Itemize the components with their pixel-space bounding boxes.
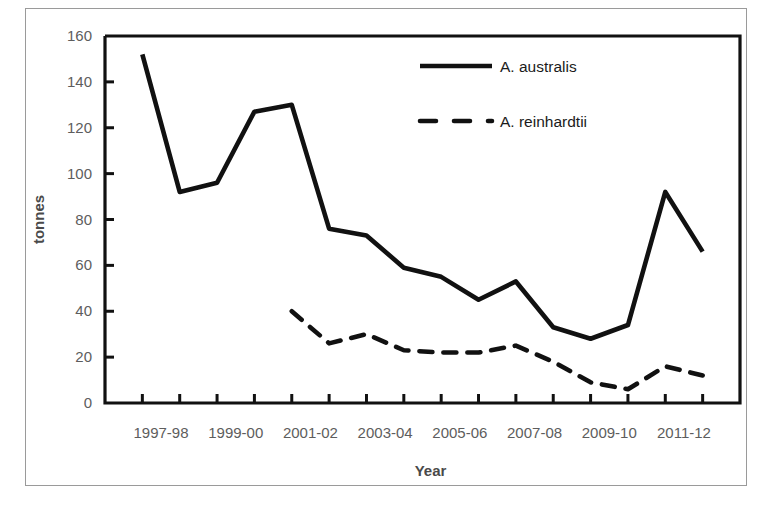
x-axis-tick-label: 2005-06 — [432, 424, 487, 441]
x-axis-tick-label: 2007-08 — [507, 424, 562, 441]
legend-label-1: A. australis — [500, 58, 577, 75]
x-axis-tick-label: 1997-98 — [133, 424, 188, 441]
x-axis-tick-label: 2003-04 — [358, 424, 413, 441]
y-axis-tick-label: 60 — [75, 256, 92, 273]
y-axis-tick-label: 160 — [67, 27, 92, 44]
plot-area-border — [105, 36, 740, 403]
y-axis-tick-label: 120 — [67, 119, 92, 136]
y-axis-title: tonnes — [30, 195, 47, 244]
x-axis-tick-label: 2011-12 — [657, 424, 711, 441]
figure-root: 0204060801001201401601997-981999-002001-… — [0, 0, 763, 518]
legend-label-2: A. reinhardtii — [500, 113, 587, 130]
x-axis-title: Year — [415, 462, 447, 479]
series-line-2 — [292, 311, 703, 389]
y-axis-tick-label: 20 — [75, 348, 92, 365]
y-axis-tick-label: 40 — [75, 302, 92, 319]
y-axis-tick-label: 0 — [84, 394, 92, 411]
figure-caption — [26, 500, 456, 514]
line-chart: 0204060801001201401601997-981999-002001-… — [0, 0, 763, 518]
x-axis-tick-label: 1999-00 — [208, 424, 263, 441]
y-axis-tick-label: 140 — [67, 73, 92, 90]
y-axis-tick-label: 100 — [67, 165, 92, 182]
series-line-1 — [142, 54, 702, 338]
y-axis-tick-label: 80 — [75, 211, 92, 228]
x-axis-tick-label: 2001-02 — [283, 424, 338, 441]
x-axis-tick-label: 2009-10 — [582, 424, 637, 441]
